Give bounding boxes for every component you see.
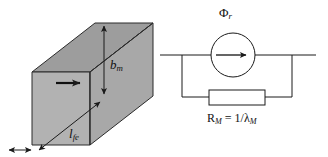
label-lfe-subscript: fe	[73, 132, 79, 142]
label-rm-equals: = 1/	[222, 111, 244, 125]
label-lambda-subscript: M	[250, 117, 257, 126]
label-length-lfe: lfe	[69, 127, 79, 142]
label-phi-symbol: Φ	[219, 5, 229, 20]
reluctance-box	[209, 90, 265, 105]
label-phi-subscript: r	[229, 11, 232, 21]
label-rm-subscript: M	[215, 117, 222, 126]
equivalent-magnetic-circuit	[160, 33, 316, 105]
figure-root: bm lfe Φr RM = 1/λM	[0, 0, 328, 157]
magnet-block	[9, 23, 153, 150]
label-rm-symbol: R	[207, 111, 215, 125]
label-height-bm: bm	[110, 58, 123, 73]
label-bm-subscript: m	[117, 63, 123, 73]
label-flux-source: Φr	[219, 6, 232, 21]
label-reluctance: RM = 1/λM	[207, 112, 257, 126]
figure-canvas	[0, 0, 328, 157]
